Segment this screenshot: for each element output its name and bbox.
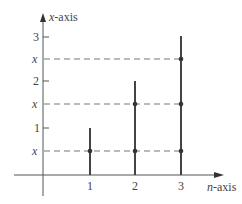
dashed-level-lines xyxy=(44,59,181,151)
vertical-axis-arrow-icon xyxy=(40,13,46,22)
y-tick-1: 1 xyxy=(34,121,40,135)
y-ticks xyxy=(43,37,49,128)
y-dash-label-upper: x xyxy=(31,52,38,66)
y-tick-3: 3 xyxy=(33,30,39,44)
x-tick-1: 1 xyxy=(87,179,93,193)
y-dash-label-middle: x xyxy=(31,97,38,111)
y-tick-2: 2 xyxy=(33,74,39,88)
y-axis-label: x-axis xyxy=(48,10,78,24)
x-tick-2: 2 xyxy=(132,179,138,193)
axes xyxy=(14,20,216,196)
x-axis-label: n-axis xyxy=(207,180,237,194)
horizontal-axis-arrow-icon xyxy=(214,172,224,178)
stem-diagram: x-axis 3 x 2 x 1 x 1 2 3 n-axis xyxy=(0,0,242,204)
x-tick-3: 3 xyxy=(178,179,184,193)
y-dash-label-lower: x xyxy=(31,144,38,158)
